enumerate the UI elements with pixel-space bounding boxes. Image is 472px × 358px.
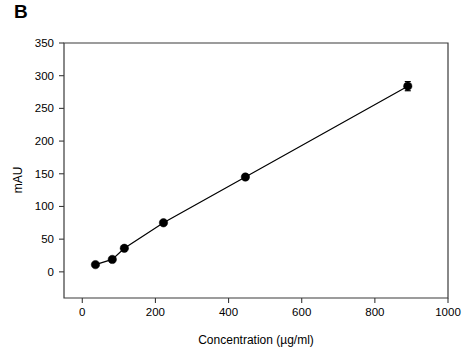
figure-panel: B 02004006008001000 05010015020025030035… bbox=[0, 0, 472, 358]
data-point bbox=[404, 82, 412, 90]
x-tick-label: 800 bbox=[365, 306, 384, 318]
x-tick-label: 0 bbox=[79, 306, 85, 318]
series-line bbox=[95, 86, 407, 265]
x-axis-title: Concentration (µg/ml) bbox=[198, 333, 314, 347]
y-tick-label: 250 bbox=[35, 102, 54, 114]
data-point bbox=[108, 255, 116, 263]
y-tick-label: 0 bbox=[48, 266, 54, 278]
x-axis-ticks bbox=[82, 298, 448, 303]
x-tick-label: 400 bbox=[219, 306, 238, 318]
data-series-layer bbox=[91, 82, 412, 269]
x-tick-label: 1000 bbox=[435, 306, 461, 318]
y-axis-tick-labels: 050100150200250300350 bbox=[35, 37, 54, 278]
data-point bbox=[120, 244, 128, 252]
calibration-chart: 02004006008001000 050100150200250300350 … bbox=[0, 0, 472, 358]
data-point bbox=[241, 173, 249, 181]
y-axis-title: mAU bbox=[11, 167, 25, 194]
y-axis-ticks bbox=[59, 43, 64, 272]
y-tick-label: 50 bbox=[41, 233, 54, 245]
y-tick-label: 350 bbox=[35, 37, 54, 49]
y-tick-label: 300 bbox=[35, 70, 54, 82]
data-point bbox=[159, 219, 167, 227]
data-point bbox=[91, 260, 99, 268]
x-tick-label: 600 bbox=[292, 306, 311, 318]
y-tick-label: 200 bbox=[35, 135, 54, 147]
y-tick-label: 150 bbox=[35, 168, 54, 180]
x-axis-tick-labels: 02004006008001000 bbox=[79, 306, 461, 318]
x-tick-label: 200 bbox=[146, 306, 165, 318]
y-tick-label: 100 bbox=[35, 200, 54, 212]
